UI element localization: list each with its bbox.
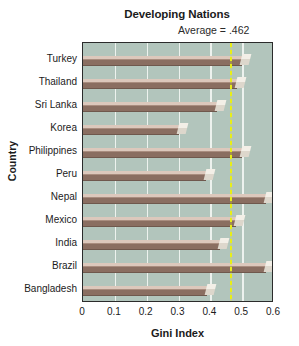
bar-row [83, 165, 273, 188]
bar-end-cap [240, 54, 252, 65]
x-axis-tick-label: 0.3 [163, 306, 193, 317]
bar [83, 148, 242, 158]
bar-row [83, 50, 273, 73]
chart-figure: Developing Nations Average = .462 Countr… [0, 0, 299, 346]
x-axis-tick-label: 0.1 [99, 306, 129, 317]
bar-row [83, 73, 273, 96]
bar-end-cap [205, 284, 217, 295]
y-axis-tick-label: Thailand [39, 76, 77, 87]
bar [83, 194, 266, 204]
bar [83, 102, 217, 112]
bar-end-cap [233, 215, 245, 226]
y-axis-tick-label: Philippines [29, 145, 77, 156]
x-axis-tick-label: 0.2 [131, 306, 161, 317]
bar [83, 125, 179, 135]
y-axis-tick-label: Turkey [47, 53, 77, 64]
y-axis-tick-label: Mexico [45, 214, 77, 225]
bar [83, 263, 266, 273]
bar-end-cap [218, 238, 230, 249]
bar-row [83, 257, 273, 280]
y-axis-tick-label: Sri Lanka [35, 99, 77, 110]
bar [83, 240, 220, 250]
x-axis-tick-label: 0 [67, 306, 97, 317]
bar [83, 286, 207, 296]
x-axis-tick-label: 0.4 [194, 306, 224, 317]
bar-end-cap [240, 146, 252, 157]
bar-end-cap [203, 169, 215, 180]
y-axis-tick-label: Korea [50, 122, 77, 133]
bar-row [83, 280, 273, 302]
bar-row [83, 119, 273, 142]
x-axis-title: Gini Index [82, 327, 273, 339]
chart-title: Developing Nations [82, 8, 272, 20]
bar-end-cap [264, 261, 273, 272]
plot-area [82, 42, 273, 302]
bar-row [83, 142, 273, 165]
bar-end-cap [176, 123, 188, 134]
y-axis-title: Country [6, 126, 18, 196]
bar [83, 79, 237, 89]
bar [83, 217, 236, 227]
bar-end-cap [264, 192, 273, 203]
y-axis-tick-label: Nepal [51, 191, 77, 202]
bar-row [83, 96, 273, 119]
y-axis-tick-label: Brazil [52, 260, 77, 271]
bar-row [83, 234, 273, 257]
bar [83, 171, 206, 181]
y-axis-tick-label: Peru [56, 168, 77, 179]
x-axis-tick-label: 0.6 [258, 306, 288, 317]
y-axis-tick-label: India [55, 237, 77, 248]
bar-row [83, 188, 273, 211]
y-axis-tick-label: Bangladesh [24, 283, 77, 294]
bar [83, 56, 242, 66]
bar-end-cap [235, 77, 247, 88]
x-axis-tick-label: 0.5 [226, 306, 256, 317]
average-line [230, 43, 232, 301]
bar-row [83, 211, 273, 234]
average-annotation-label: Average = .462 [178, 24, 249, 36]
bar-end-cap [214, 100, 226, 111]
